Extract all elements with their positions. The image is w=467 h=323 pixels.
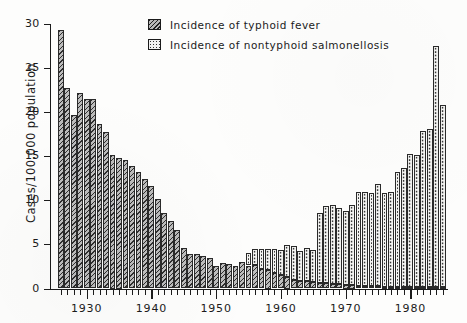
bar-typhoid [414, 287, 420, 289]
bar-nontyphoid [330, 205, 336, 284]
x-axis-tick-label: 1950 [199, 302, 233, 315]
bar-typhoid [259, 269, 265, 288]
bar-nontyphoid [349, 205, 355, 285]
bar-typhoid [330, 284, 336, 288]
bar-nontyphoid [407, 154, 413, 287]
x-axis-tick-minor [132, 290, 133, 295]
x-axis-tick-minor [287, 290, 288, 295]
bar-typhoid [207, 258, 213, 289]
x-axis-tick-minor [100, 290, 101, 295]
x-axis-tick-minor [417, 290, 418, 295]
bar-typhoid [343, 285, 349, 289]
x-axis-tick-minor [126, 290, 127, 295]
x-axis-tick-minor [80, 290, 81, 295]
x-axis-tick-label: 1960 [264, 302, 298, 315]
x-axis-tick-minor [404, 290, 405, 295]
bar-typhoid [97, 124, 103, 289]
chart-legend: Incidence of typhoid fever Incidence of … [148, 16, 389, 56]
bar-nontyphoid [265, 249, 271, 270]
chart-figure: Cases/100,000 population Incidence of ty… [0, 0, 467, 323]
bar-nontyphoid [278, 250, 284, 276]
bar-nontyphoid [388, 192, 394, 286]
x-axis-tick-minor [365, 290, 366, 295]
x-axis-tick-minor [300, 290, 301, 295]
bar-typhoid [317, 283, 323, 288]
x-axis-tick-label: 1930 [70, 302, 104, 315]
bar-nontyphoid [401, 168, 407, 287]
x-axis-tick-minor [313, 290, 314, 295]
bar-typhoid [362, 286, 368, 289]
bar-typhoid [382, 287, 388, 289]
x-axis-tick-minor [268, 290, 269, 295]
bar-typhoid [123, 160, 129, 289]
x-axis-tick-minor [333, 290, 334, 295]
bar-nontyphoid [343, 211, 349, 285]
y-axis-tick [44, 112, 51, 113]
bar-nontyphoid [246, 253, 252, 265]
x-axis-tick-label: 1980 [393, 302, 427, 315]
bar-typhoid [110, 155, 116, 289]
y-axis-tick [44, 68, 51, 69]
bar-nontyphoid [375, 184, 381, 286]
bar-typhoid [58, 30, 64, 288]
y-axis-tick-label: 0 [32, 282, 39, 295]
x-axis-tick-minor [158, 290, 159, 295]
x-axis-tick-minor [203, 290, 204, 295]
x-axis-tick-minor [113, 290, 114, 295]
bar-typhoid [427, 287, 433, 289]
legend-label-typhoid: Incidence of typhoid fever [170, 19, 320, 31]
y-axis-tick [44, 200, 51, 201]
x-axis-tick-minor [294, 290, 295, 295]
bar-typhoid [84, 99, 90, 289]
x-axis-tick-major [281, 290, 282, 299]
bar-typhoid [420, 287, 426, 289]
bar-nontyphoid [252, 249, 258, 265]
bar-nontyphoid [259, 249, 265, 269]
bar-typhoid [136, 172, 142, 288]
x-axis-tick-major [216, 290, 217, 299]
bar-nontyphoid [304, 248, 310, 282]
bar-typhoid [71, 115, 77, 289]
bar-typhoid [116, 158, 122, 289]
bar-typhoid [187, 254, 193, 288]
bar-typhoid [310, 282, 316, 288]
x-axis-tick-minor [423, 290, 424, 295]
x-axis-tick-major [346, 290, 347, 299]
bar-nontyphoid [297, 251, 303, 281]
x-axis-tick-minor [138, 290, 139, 295]
bar-nontyphoid [356, 192, 362, 286]
bar-typhoid [226, 264, 232, 289]
x-axis-tick-minor [177, 290, 178, 295]
x-axis-tick-minor [61, 290, 62, 295]
bar-nontyphoid [440, 105, 446, 287]
legend-item-typhoid: Incidence of typhoid fever [148, 16, 389, 33]
bar-nontyphoid [427, 129, 433, 287]
bar-nontyphoid [414, 155, 420, 286]
bar-typhoid [194, 254, 200, 288]
bar-typhoid [213, 266, 219, 289]
x-axis-tick-minor [391, 290, 392, 295]
x-axis-tick-minor [190, 290, 191, 295]
bar-typhoid [375, 286, 381, 289]
bar-typhoid [323, 283, 329, 288]
x-axis-tick-minor [385, 290, 386, 295]
bar-nontyphoid [323, 206, 329, 284]
y-axis-tick-label: 20 [25, 105, 40, 118]
bar-typhoid [233, 266, 239, 289]
bar-typhoid [239, 262, 245, 288]
y-axis-tick [44, 289, 51, 290]
x-axis-tick-minor [171, 290, 172, 295]
bar-typhoid [433, 287, 439, 289]
bar-nontyphoid [395, 172, 401, 287]
bar-typhoid [246, 266, 252, 289]
bar-typhoid [103, 132, 109, 288]
x-axis-tick-minor [210, 290, 211, 295]
y-axis-tick-label: 30 [25, 17, 40, 30]
bar-typhoid [129, 166, 135, 289]
legend-swatch-hatch-icon [148, 19, 161, 30]
x-axis-tick-major [87, 290, 88, 299]
bar-typhoid [407, 287, 413, 289]
x-axis-tick-minor [74, 290, 75, 295]
y-axis-tick-label: 5 [32, 237, 39, 250]
x-axis-tick-minor [378, 290, 379, 295]
